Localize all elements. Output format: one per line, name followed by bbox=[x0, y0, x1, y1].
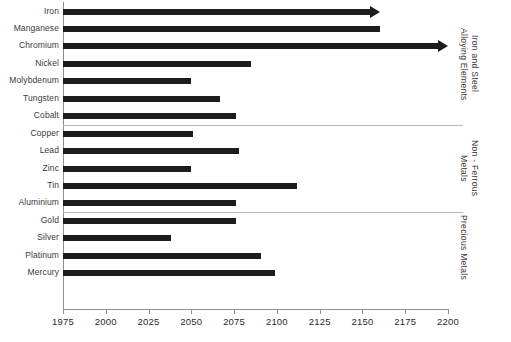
x-tick-2125 bbox=[320, 309, 321, 314]
bar-chromium bbox=[63, 43, 438, 49]
group-separator-0 bbox=[63, 125, 463, 126]
x-tick-1975 bbox=[63, 309, 64, 314]
bar-mercury bbox=[63, 270, 275, 276]
bar-aluminium bbox=[63, 200, 236, 206]
category-label-gold: Gold bbox=[1, 216, 59, 225]
x-tick-label-1975: 1975 bbox=[52, 316, 74, 327]
x-tick-2100 bbox=[277, 309, 278, 314]
bar-tin bbox=[63, 183, 297, 189]
category-label-iron: Iron bbox=[1, 7, 59, 16]
category-label-manganese: Manganese bbox=[1, 24, 59, 33]
bar-nickel bbox=[63, 61, 251, 67]
category-label-molybdenum: Molybdenum bbox=[1, 76, 59, 85]
x-axis-line bbox=[63, 309, 449, 310]
x-tick-2150 bbox=[362, 309, 363, 314]
x-tick-label-2000: 2000 bbox=[95, 316, 117, 327]
arrow-icon-chromium bbox=[438, 40, 448, 52]
category-label-platinum: Platinum bbox=[1, 251, 59, 260]
category-label-aluminium: Aluminium bbox=[1, 198, 59, 207]
category-label-zinc: Zinc bbox=[1, 164, 59, 173]
category-label-lead: Lead bbox=[1, 146, 59, 155]
arrow-icon-iron bbox=[370, 6, 380, 18]
group-separator-1 bbox=[63, 212, 463, 213]
bar-cobalt bbox=[63, 113, 236, 119]
x-tick-label-2200: 2200 bbox=[437, 316, 459, 327]
group-label-0: Iron and Steel Alloying Elements bbox=[458, 4, 480, 125]
bar-platinum bbox=[63, 253, 261, 259]
x-tick-2075 bbox=[234, 309, 235, 314]
x-tick-label-2025: 2025 bbox=[138, 316, 160, 327]
x-tick-2025 bbox=[149, 309, 150, 314]
x-tick-label-2150: 2150 bbox=[351, 316, 373, 327]
category-label-chromium: Chromium bbox=[1, 41, 59, 50]
bar-zinc bbox=[63, 166, 191, 172]
bar-molybdenum bbox=[63, 78, 191, 84]
x-tick-2050 bbox=[191, 309, 192, 314]
bar-manganese bbox=[63, 26, 380, 32]
x-tick-label-2125: 2125 bbox=[309, 316, 331, 327]
category-label-mercury: Mercury bbox=[1, 268, 59, 277]
bar-lead bbox=[63, 148, 239, 154]
horizontal-bar-chart: IronManganeseChromiumNickelMolybdenumTun… bbox=[0, 0, 511, 342]
bar-gold bbox=[63, 218, 236, 224]
category-label-copper: Copper bbox=[1, 129, 59, 138]
bar-copper bbox=[63, 131, 193, 137]
category-label-tungsten: Tungsten bbox=[1, 94, 59, 103]
x-tick-label-2075: 2075 bbox=[223, 316, 245, 327]
category-label-tin: Tin bbox=[1, 181, 59, 190]
x-tick-label-2050: 2050 bbox=[180, 316, 202, 327]
x-tick-2000 bbox=[106, 309, 107, 314]
group-label-1: Non - Ferrous Metals bbox=[458, 126, 480, 212]
plot-area: 1975200020252050207521002125215021752200 bbox=[63, 0, 448, 310]
category-label-cobalt: Cobalt bbox=[1, 111, 59, 120]
x-tick-2175 bbox=[405, 309, 406, 314]
category-axis-labels: IronManganeseChromiumNickelMolybdenumTun… bbox=[0, 0, 59, 310]
category-label-silver: Silver bbox=[1, 233, 59, 242]
group-label-2: Precious Metals bbox=[458, 213, 469, 281]
bar-tungsten bbox=[63, 96, 220, 102]
category-label-nickel: Nickel bbox=[1, 59, 59, 68]
x-tick-label-2100: 2100 bbox=[266, 316, 288, 327]
x-tick-2200 bbox=[448, 309, 449, 314]
x-tick-label-2175: 2175 bbox=[394, 316, 416, 327]
bar-silver bbox=[63, 235, 171, 241]
bar-iron bbox=[63, 9, 370, 15]
